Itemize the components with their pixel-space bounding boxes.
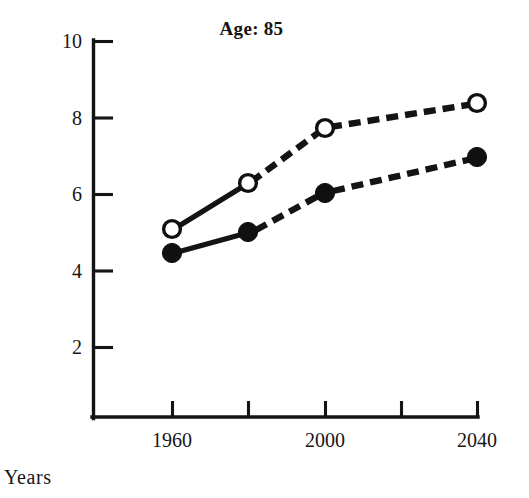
x-tick-label-2000: 2000: [305, 429, 345, 451]
data-point-open-2040: [469, 95, 486, 112]
series-filled-segment-2000-2040: [333, 159, 472, 191]
x-axis-ticks: [173, 401, 478, 417]
data-point-filled-2040: [467, 147, 486, 166]
y-tick-label-2: 2: [72, 336, 82, 358]
data-point-open-1980: [240, 175, 257, 192]
chart-canvas: 10 8 6 4 2 1960 2000 2040: [0, 0, 529, 498]
x-tick-label-1960: 1960: [152, 429, 192, 451]
y-tick-label-10: 10: [62, 30, 82, 52]
y-tick-label-4: 4: [72, 260, 82, 282]
data-point-open-2000: [317, 120, 334, 137]
series-open-segment-1980-2000: [251, 130, 322, 182]
x-tick-label-2040: 2040: [457, 429, 497, 451]
data-point-filled-1980: [238, 222, 257, 241]
y-tick-label-8: 8: [72, 107, 82, 129]
data-point-open-1960: [164, 221, 181, 238]
series-open-segment-1960-1980: [174, 184, 247, 229]
y-tick-label-6: 6: [72, 183, 82, 205]
series-open-circle: [164, 95, 486, 238]
x-axis-caption: Years: [4, 466, 52, 489]
series-filled-segment-1980-2000: [256, 195, 320, 230]
series-filled-segment-1960-1980: [174, 233, 247, 253]
data-point-filled-1960: [162, 243, 181, 262]
y-axis-ticks: [93, 42, 113, 348]
chart-figure: Age: 85 10 8 6 4 2 1960 2000: [0, 0, 529, 498]
series-open-segment-2000-2040: [330, 104, 474, 127]
data-point-filled-2000: [315, 183, 334, 202]
